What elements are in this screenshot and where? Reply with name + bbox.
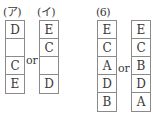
stack-6-left: E C A D B	[97, 20, 117, 112]
stack-cell	[40, 57, 58, 75]
or-connector-a: or	[26, 55, 38, 66]
stack-cell: E	[132, 21, 150, 39]
label-i: (イ)	[37, 7, 55, 19]
stack-cell: B	[132, 57, 150, 75]
stack-cell: C	[98, 39, 116, 57]
stack-cell: D	[98, 75, 116, 93]
stack-cell: E	[6, 75, 24, 93]
stack-cell: C	[132, 39, 150, 57]
stack-6-right: E C B D A	[131, 20, 151, 112]
stack-cell: A	[98, 57, 116, 75]
stack-cell: D	[132, 75, 150, 93]
or-connector-6: or	[118, 63, 130, 74]
stack-cell: A	[132, 93, 150, 111]
stack-cell: D	[40, 75, 58, 93]
stack-cell: E	[40, 21, 58, 39]
stack-cell: C	[6, 57, 24, 75]
stack-cell: E	[98, 21, 116, 39]
stack-cell: C	[40, 39, 58, 57]
stack-cell: D	[6, 21, 24, 39]
label-6: (6)	[96, 7, 110, 19]
stack-a-right: E C D	[39, 20, 59, 94]
label-a: (ア)	[3, 7, 21, 19]
stack-cell	[6, 39, 24, 57]
stack-cell: B	[98, 93, 116, 111]
stack-a-left: D C E	[5, 20, 25, 94]
